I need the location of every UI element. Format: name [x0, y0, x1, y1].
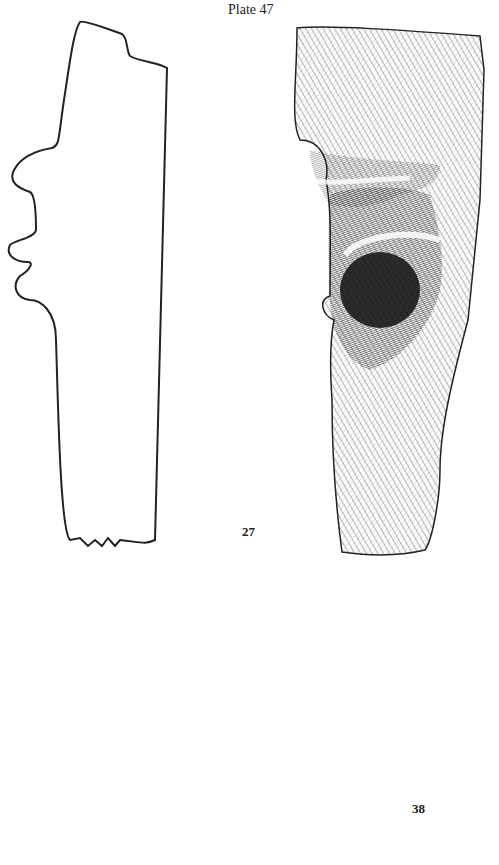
profile-outline-27: [9, 22, 167, 546]
figure-number-38: 38: [412, 801, 425, 817]
plate-drawings: [0, 0, 499, 865]
hatched-drawing-27: [295, 27, 484, 555]
figure-number-27: 27: [242, 524, 255, 540]
